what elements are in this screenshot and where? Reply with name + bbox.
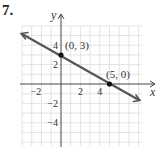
y-axis-label: y [50,8,57,22]
point-label: (5, 0) [106,68,130,81]
x-tick-label: 2 [78,86,83,97]
axes [20,14,155,147]
point-0-3 [58,52,63,57]
y-tick-label: 4 [53,40,58,51]
y-tick-label: 2 [53,59,58,70]
coordinate-plane: x y −2 2 4 4 2 −2 −4 (0, 3) (5, 0) [0,0,167,148]
point-5-0 [107,81,112,86]
x-axis-label: x [149,85,156,99]
x-tick-label: 4 [97,86,102,97]
y-tick-label: −4 [47,117,58,128]
point-label: (0, 3) [65,39,89,52]
y-tick-label: −2 [47,98,58,109]
x-tick-label: −2 [31,86,42,97]
